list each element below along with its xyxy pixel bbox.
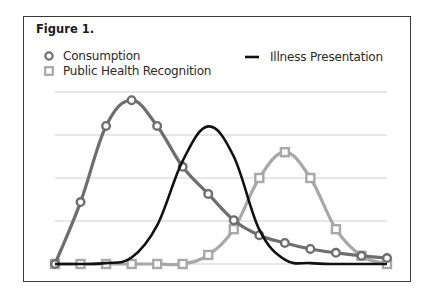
data-point-circle (102, 122, 110, 130)
data-point-square (255, 174, 263, 182)
data-point-circle (77, 198, 85, 206)
data-point-square (281, 148, 289, 156)
data-point-circle (204, 190, 212, 198)
data-point-square (128, 260, 136, 268)
series-group (51, 96, 391, 268)
data-point-circle (153, 122, 161, 130)
gridlines (55, 92, 387, 264)
data-point-circle (383, 254, 391, 262)
data-point-circle (281, 239, 289, 247)
data-point-square (179, 260, 187, 268)
data-point-square (332, 225, 340, 233)
line-chart (0, 0, 433, 298)
data-point-circle (307, 245, 315, 253)
data-point-square (204, 251, 212, 259)
data-point-circle (230, 216, 238, 224)
data-point-square (230, 225, 238, 233)
data-point-circle (128, 96, 136, 104)
data-point-square (306, 174, 314, 182)
data-point-circle (332, 249, 340, 257)
data-point-circle (358, 252, 366, 260)
data-point-square (153, 260, 161, 268)
